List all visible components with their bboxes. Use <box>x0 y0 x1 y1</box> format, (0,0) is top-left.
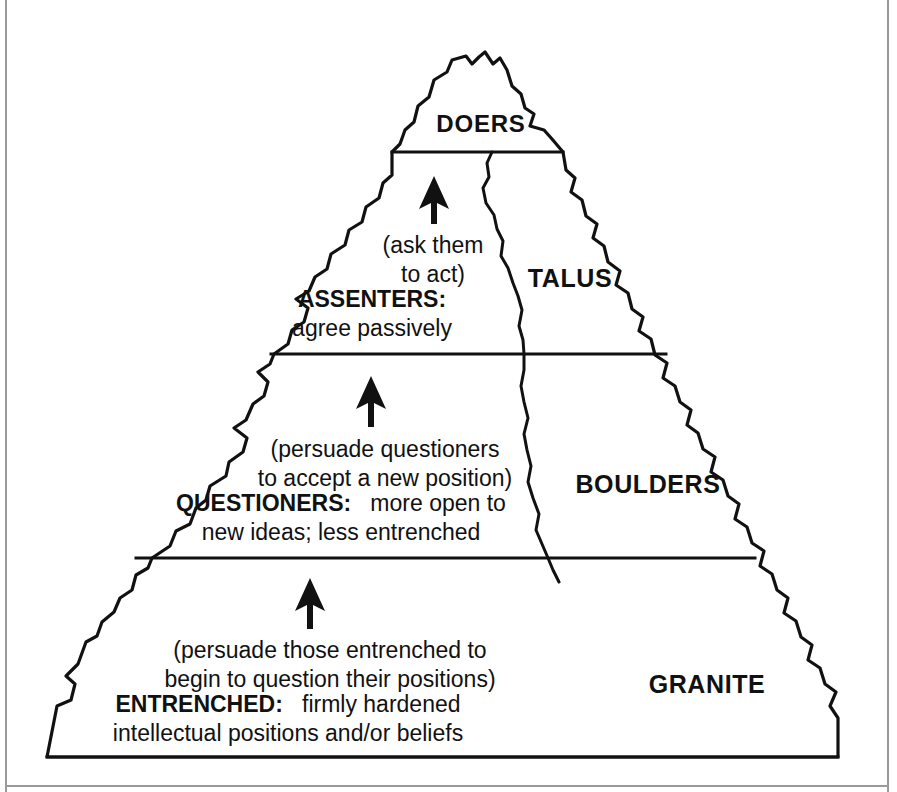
diagram-canvas: DOERS TALUS BOULDERS GRANITE (ask them t… <box>0 0 897 792</box>
entrenched-heading-row: ENTRENCHED: firmly hardened <box>113 690 463 719</box>
questioners-heading-row: QUESTIONERS: more open to <box>176 489 506 518</box>
questioners-description-inline: more open to <box>370 490 506 516</box>
summit-label-doers: DOERS <box>436 110 525 138</box>
entrenched-description: ENTRENCHED: firmly hardened intellectual… <box>113 690 463 748</box>
questioners-action-line-1: (persuade questioners <box>258 435 512 464</box>
entrenched-heading: ENTRENCHED: <box>115 691 282 717</box>
entrenched-action-text: (persuade those entrenched to begin to q… <box>164 636 495 694</box>
entrenched-description-line-1: intellectual positions and/or beliefs <box>113 719 463 748</box>
granite-label: GRANITE <box>649 670 766 700</box>
questioners-action-text: (persuade questioners to accept a new po… <box>258 435 512 493</box>
assenters-heading: ASSENTERS: <box>292 285 452 314</box>
assenters-description: ASSENTERS: agree passively <box>292 285 452 343</box>
assenters-action-text: (ask them to act) <box>383 231 484 289</box>
assenters-action-line-1: (ask them <box>383 231 484 260</box>
entrenched-action-line-1: (persuade those entrenched to <box>164 636 495 665</box>
questioners-heading: QUESTIONERS: <box>176 490 351 516</box>
questioners-description: QUESTIONERS: more open to new ideas; les… <box>176 489 506 547</box>
entrenched-description-inline: firmly hardened <box>302 691 461 717</box>
boulders-label: BOULDERS <box>575 470 720 500</box>
talus-label: TALUS <box>528 264 612 294</box>
questioners-description-line-1: new ideas; less entrenched <box>176 518 506 547</box>
assenters-description-line-1: agree passively <box>292 314 452 343</box>
